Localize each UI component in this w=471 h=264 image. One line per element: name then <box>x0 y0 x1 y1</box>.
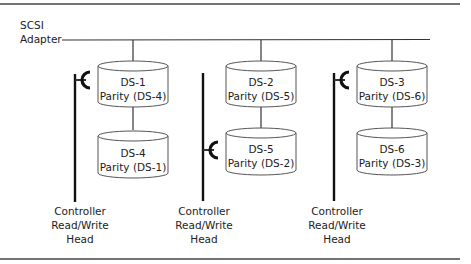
disk-ds-6: DS-6 Parity (DS-3) <box>357 128 427 175</box>
svg-text:DS-6: DS-6 <box>379 143 405 155</box>
svg-text:Controller: Controller <box>178 205 230 217</box>
svg-text:Controller: Controller <box>311 205 363 217</box>
read-write-head-2 <box>203 73 218 201</box>
adapter-label-line2: Adapter <box>20 33 62 45</box>
disk-ds-1: DS-1 Parity (DS-4) <box>98 61 168 107</box>
svg-text:Read/Write: Read/Write <box>308 219 366 231</box>
scsi-bus <box>62 40 430 41</box>
svg-text:Parity (DS-5): Parity (DS-5) <box>228 90 295 102</box>
svg-text:Read/Write: Read/Write <box>175 219 233 231</box>
svg-text:Parity (DS-2): Parity (DS-2) <box>228 157 295 169</box>
svg-text:DS-1: DS-1 <box>120 76 145 88</box>
svg-text:Head: Head <box>190 233 217 245</box>
svg-text:DS-4: DS-4 <box>120 147 146 159</box>
head-label-3: Controller Read/Write Head <box>308 205 366 245</box>
read-write-head-3 <box>334 72 349 201</box>
disk-ds-5: DS-5 Parity (DS-2) <box>226 128 296 175</box>
svg-text:Parity (DS-1): Parity (DS-1) <box>100 161 167 173</box>
disk-ds-2: DS-2 Parity (DS-5) <box>226 61 296 107</box>
svg-text:Parity (DS-4): Parity (DS-4) <box>100 90 167 102</box>
disk-ds-3: DS-3 Parity (DS-6) <box>357 61 427 107</box>
svg-text:Head: Head <box>66 233 93 245</box>
head-label-2: Controller Read/Write Head <box>175 205 233 245</box>
head-label-1: Controller Read/Write Head <box>51 205 109 245</box>
svg-text:Head: Head <box>323 233 350 245</box>
svg-text:Read/Write: Read/Write <box>51 219 109 231</box>
svg-text:DS-2: DS-2 <box>248 76 273 88</box>
svg-text:Controller: Controller <box>54 205 106 217</box>
disk-ds-4: DS-4 Parity (DS-1) <box>98 131 168 178</box>
svg-text:DS-5: DS-5 <box>248 143 273 155</box>
svg-text:Parity (DS-6): Parity (DS-6) <box>359 90 426 102</box>
svg-text:Parity (DS-3): Parity (DS-3) <box>359 157 426 169</box>
scsi-parity-diagram: SCSI Adapter DS-1 Parity (DS-4) DS-4 Par… <box>0 0 471 264</box>
adapter-label-line1: SCSI <box>20 19 44 31</box>
svg-text:DS-3: DS-3 <box>379 76 404 88</box>
read-write-head-1 <box>75 72 90 202</box>
